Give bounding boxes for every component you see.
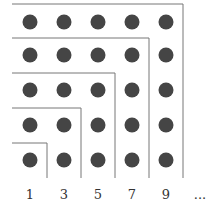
dot (125, 118, 140, 133)
dot (91, 83, 106, 98)
label-5: 5 (88, 187, 108, 202)
dot (159, 48, 174, 63)
dot (91, 48, 106, 63)
dot (159, 153, 174, 168)
dot (23, 118, 38, 133)
dot (91, 118, 106, 133)
dot (159, 83, 174, 98)
label-7: 7 (122, 187, 142, 202)
dot (23, 83, 38, 98)
dot (125, 48, 140, 63)
dot (159, 15, 174, 30)
dot (57, 48, 72, 63)
dots (23, 15, 174, 168)
dot (159, 118, 174, 133)
dot (23, 48, 38, 63)
dot (91, 15, 106, 30)
dot (125, 83, 140, 98)
label-3: 3 (54, 187, 74, 202)
dot (57, 153, 72, 168)
label-ellipsis: ... (190, 187, 210, 202)
dot-grid-diagram (0, 0, 215, 210)
dot (57, 83, 72, 98)
dot (125, 15, 140, 30)
dot (125, 153, 140, 168)
dot (57, 15, 72, 30)
dot (23, 153, 38, 168)
label-9: 9 (156, 187, 176, 202)
label-1: 1 (20, 187, 40, 202)
dot (91, 153, 106, 168)
dot (57, 118, 72, 133)
dot (23, 15, 38, 30)
